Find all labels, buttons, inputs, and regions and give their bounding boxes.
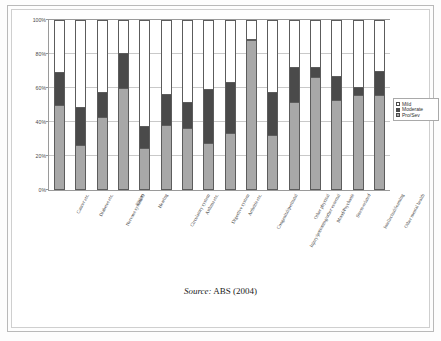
y-tick-label: 100%	[33, 17, 46, 23]
stacked-bar[interactable]	[225, 20, 236, 190]
bar-segment-mild	[311, 21, 320, 68]
bar-segment-mild	[183, 21, 192, 103]
legend-swatch-moderate	[396, 108, 400, 112]
bar-segment-moderate	[311, 68, 320, 77]
bar-slot	[262, 20, 283, 190]
y-tick-label: 40%	[36, 119, 46, 125]
bar-segment-prosev	[290, 103, 299, 189]
legend-item-prosev[interactable]: Pro/Sev	[396, 113, 436, 118]
stacked-bar[interactable]	[75, 20, 86, 190]
bar-segment-mild	[140, 21, 149, 127]
bar-segment-moderate	[98, 93, 107, 117]
bar-segment-moderate	[226, 83, 235, 134]
plot-area: 0%20%40%60%80%100%	[48, 20, 390, 191]
stacked-bar[interactable]	[289, 20, 300, 190]
bar-slot	[283, 20, 304, 190]
stacked-bar[interactable]	[161, 20, 172, 190]
bar-segment-mild	[204, 21, 213, 90]
bar-segment-prosev	[76, 146, 85, 189]
bar-segment-moderate	[119, 54, 128, 90]
bar-segment-moderate	[76, 108, 85, 146]
bar-segment-prosev	[247, 41, 256, 189]
y-tick-label: 20%	[36, 153, 46, 159]
bar-slot	[134, 20, 155, 190]
x-axis-label: Diabetes etc.	[98, 193, 114, 217]
bar-segment-moderate	[140, 127, 149, 150]
stacked-bar[interactable]	[118, 20, 129, 190]
figure-page: 0%20%40%60%80%100% Cancer etc.Diabetes e…	[0, 0, 441, 341]
bar-segment-moderate	[204, 90, 213, 144]
stacked-bar[interactable]	[374, 20, 385, 190]
bar-segment-mild	[55, 21, 64, 73]
bar-slot	[241, 20, 262, 190]
bar-segment-mild	[290, 21, 299, 68]
bar-segment-moderate	[162, 95, 171, 126]
bar-segment-prosev	[311, 78, 320, 189]
bar-slot	[92, 20, 113, 190]
x-axis-label: Intellectual/learning	[383, 193, 406, 229]
bar-segment-moderate	[290, 68, 299, 102]
bar-slot	[177, 20, 198, 190]
bar-segment-moderate	[183, 103, 192, 129]
bar-slot	[49, 20, 70, 190]
bar-slot	[156, 20, 177, 190]
bar-slot	[70, 20, 91, 190]
stacked-bar[interactable]	[267, 20, 278, 190]
bar-series-group	[49, 20, 390, 190]
bar-segment-moderate	[375, 72, 384, 96]
bar-segment-prosev	[98, 118, 107, 189]
bar-segment-moderate	[354, 88, 363, 96]
source-caption: Source: ABS (2004)	[12, 286, 429, 296]
bar-slot	[220, 20, 241, 190]
bar-segment-moderate	[268, 93, 277, 136]
bar-slot	[198, 20, 219, 190]
y-tick-label: 0%	[39, 187, 47, 193]
source-label: Source:	[184, 286, 212, 296]
bar-segment-prosev	[162, 126, 171, 189]
bar-segment-mild	[247, 21, 256, 40]
bar-slot	[369, 20, 390, 190]
y-tick-label: 60%	[36, 85, 46, 91]
bar-segment-mild	[268, 21, 277, 93]
bar-segment-prosev	[55, 106, 64, 189]
bar-segment-mild	[119, 21, 128, 54]
bar-slot	[113, 20, 134, 190]
bar-segment-mild	[76, 21, 85, 108]
bar-segment-prosev	[354, 96, 363, 189]
stacked-bar[interactable]	[246, 20, 257, 190]
legend-label-prosev: Pro/Sev	[402, 113, 420, 118]
bar-segment-mild	[354, 21, 363, 88]
legend-swatch-prosev	[396, 113, 400, 117]
x-axis-label: Hearing	[157, 193, 169, 209]
bar-segment-prosev	[140, 149, 149, 189]
stacked-bar[interactable]	[97, 20, 108, 190]
chart-legend: Mild Moderate Pro/Sev	[393, 98, 439, 121]
bar-segment-mild	[332, 21, 341, 77]
bar-segment-mild	[162, 21, 171, 95]
stacked-bar[interactable]	[353, 20, 364, 190]
bar-slot	[326, 20, 347, 190]
bar-segment-moderate	[55, 73, 64, 106]
x-axis-label: Congenital/perinatal	[276, 193, 299, 230]
stacked-bar[interactable]	[310, 20, 321, 190]
stacked-bar[interactable]	[139, 20, 150, 190]
bar-segment-prosev	[268, 136, 277, 189]
stacked-bar[interactable]	[54, 20, 65, 190]
chart-container: 0%20%40%60%80%100% Cancer etc.Diabetes e…	[12, 10, 429, 327]
bar-segment-mild	[226, 21, 235, 83]
bar-segment-prosev	[375, 96, 384, 189]
bar-segment-prosev	[204, 144, 213, 189]
x-axis-label: Digestive system	[230, 193, 250, 224]
stacked-bar[interactable]	[203, 20, 214, 190]
x-axis-label: Other mental health	[404, 193, 426, 229]
y-tick-label: 80%	[36, 51, 46, 57]
legend-swatch-mild	[396, 102, 400, 106]
bar-segment-prosev	[226, 134, 235, 189]
bar-segment-mild	[375, 21, 384, 72]
stacked-bar[interactable]	[331, 20, 342, 190]
stacked-bar[interactable]	[182, 20, 193, 190]
bar-segment-prosev	[332, 101, 341, 189]
bar-segment-mild	[98, 21, 107, 93]
x-axis-label: Cancer etc.	[75, 193, 90, 214]
bar-slot	[347, 20, 368, 190]
